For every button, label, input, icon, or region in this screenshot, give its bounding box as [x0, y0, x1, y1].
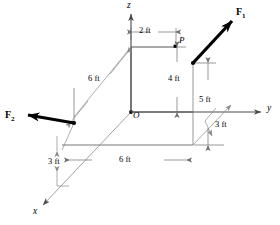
force-f1-subscript: 1: [242, 12, 246, 20]
dim-6ft-diagonal: [71, 53, 127, 122]
dim-6ft-bottom-label: 6 ft: [119, 155, 131, 164]
dim-6ft-diagonal-label: 6 ft: [88, 74, 100, 83]
point-p-marker: [174, 45, 177, 48]
force-f2-label: F2: [5, 110, 15, 123]
lower-left-rail: [62, 123, 74, 150]
dim-4ft-label: 4 ft: [168, 74, 180, 83]
force-f2-arrow: [28, 115, 76, 125]
origin-label: O: [133, 111, 140, 120]
force-f1-arrow: [191, 21, 232, 65]
x-axis-label: x: [33, 207, 37, 217]
dim-2ft-top: [131, 28, 176, 44]
y-axis-label: y: [267, 104, 271, 114]
dim-3ft-left-label: 3 ft: [48, 157, 60, 166]
force-diagram-figure: z y x O P 2 ft 4 ft 5 ft 6 ft 6 ft 3 ft …: [0, 0, 280, 225]
z-axis-label: z: [127, 1, 131, 11]
dim-3ft-right-label: 3 ft: [215, 120, 227, 129]
force-f2-subscript: 2: [11, 115, 15, 123]
point-p-label: P: [179, 36, 185, 45]
left-rail: [74, 47, 131, 117]
dim-5ft: [194, 63, 224, 145]
dim-5ft-label: 5 ft: [199, 95, 211, 104]
force-f1-label: F1: [236, 7, 246, 20]
dim-2ft-top-label: 2 ft: [139, 26, 151, 35]
